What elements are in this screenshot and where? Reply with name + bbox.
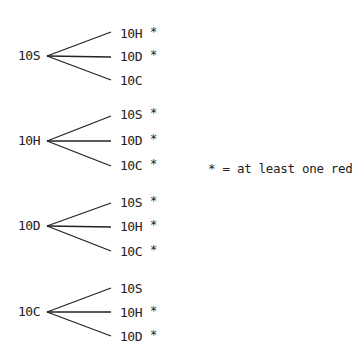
branch-node: 10H <box>120 27 142 41</box>
branch-node: 10C <box>120 159 142 173</box>
red-marker: * <box>150 157 157 171</box>
red-marker: * <box>150 243 157 257</box>
red-marker: * <box>150 194 157 208</box>
branch-node: 10S <box>120 196 142 210</box>
root-node: 10H <box>18 134 40 148</box>
tree-lines <box>0 0 362 355</box>
branch-node: 10H <box>120 306 142 320</box>
root-node: 10D <box>18 219 40 233</box>
branch-node: 10H <box>120 220 142 234</box>
root-node: 10S <box>18 49 40 63</box>
legend: * = at least one red <box>208 162 353 176</box>
red-marker: * <box>150 218 157 232</box>
branch-node: 10D <box>120 134 142 148</box>
branch-node: 10S <box>120 108 142 122</box>
red-marker: * <box>150 25 157 39</box>
root-node: 10C <box>18 305 40 319</box>
branch-node: 10C <box>120 245 142 259</box>
red-marker: * <box>150 328 157 342</box>
red-marker: * <box>150 132 157 146</box>
branch-node: 10C <box>120 74 142 88</box>
branch-node: 10D <box>120 50 142 64</box>
red-marker: * <box>150 106 157 120</box>
red-marker: * <box>150 304 157 318</box>
red-marker: * <box>150 48 157 62</box>
branch-node: 10D <box>120 330 142 344</box>
branch-node: 10S <box>120 282 142 296</box>
